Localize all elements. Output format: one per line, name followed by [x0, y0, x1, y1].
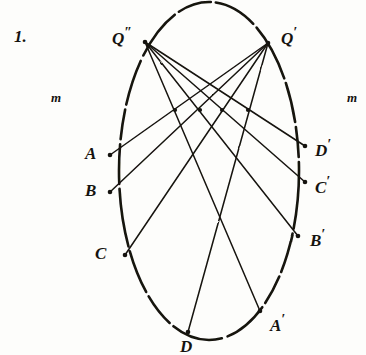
point-label-A: A	[85, 145, 96, 162]
point-label-Q2: Q″	[112, 26, 132, 47]
figure-number: 1.	[14, 28, 27, 45]
chord-Q2-Dp	[145, 42, 305, 146]
chord-Q1-A	[110, 43, 268, 155]
line-label-m-right: m	[347, 91, 357, 104]
geometry-drawing	[0, 0, 366, 355]
point-dot-Ap	[258, 309, 263, 314]
chord-Q1-B	[110, 43, 268, 192]
chord-Q2-Cp	[145, 42, 305, 182]
axis-intersection-1	[173, 108, 177, 112]
axis-intersection-4	[246, 108, 250, 112]
point-dot-B	[108, 190, 113, 195]
point-dot-Dp	[303, 144, 308, 149]
point-label-B: B	[85, 182, 96, 199]
point-label-D: D	[180, 338, 192, 355]
point-dot-D	[186, 330, 191, 335]
point-dot-Q1	[266, 41, 271, 46]
point-dot-Cp	[303, 180, 308, 185]
line-label-m-left: m	[51, 91, 61, 104]
ellipse-outline	[119, 2, 299, 340]
point-label-C: C	[95, 245, 106, 262]
point-label-Cp: C′	[315, 175, 330, 196]
point-label-Ap: A′	[270, 313, 285, 334]
chord-Q2-Ap	[145, 42, 260, 311]
axis-intersection-2	[198, 108, 202, 112]
point-dot-C	[123, 253, 128, 258]
axis-intersection-3	[220, 108, 224, 112]
point-label-Q1: Q′	[281, 26, 297, 47]
chord-lines	[110, 42, 305, 332]
chord-Q2-Bp	[145, 42, 298, 236]
figure-canvas: 1. m m Q″Q′ABCDA′B′C′D′	[0, 0, 366, 355]
point-label-Bp: B′	[310, 228, 325, 249]
chord-Q1-D	[188, 43, 268, 332]
point-dot-Bp	[296, 234, 301, 239]
point-label-Dp: D′	[315, 138, 331, 159]
point-dot-Q2	[143, 40, 148, 45]
point-dot-A	[108, 153, 113, 158]
